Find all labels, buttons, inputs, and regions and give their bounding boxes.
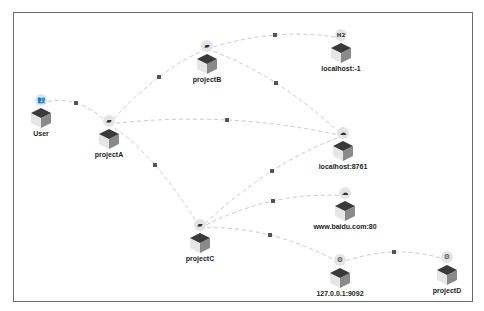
node-projectD[interactable]: ⚙projectD <box>433 251 461 295</box>
nodes-layer: 👥User▰projectA▰projectBH2localhost:-1☁lo… <box>31 29 461 297</box>
svg-text:👥: 👥 <box>37 96 46 104</box>
edge-projectA-localhost8761[interactable] <box>109 118 343 136</box>
node-projectC[interactable]: ▰projectC <box>186 219 214 263</box>
svg-text:☁: ☁ <box>342 189 349 197</box>
svg-text:☁: ☁ <box>340 129 347 137</box>
svg-text:⚙: ⚙ <box>444 253 450 261</box>
node-baidu[interactable]: ☁www.baidu.com:80 <box>312 187 376 230</box>
edge-kafka-projectD[interactable] <box>340 250 447 263</box>
node-projectB[interactable]: ▰projectB <box>193 40 221 84</box>
topology-graph[interactable]: 👥User▰projectA▰projectBH2localhost:-1☁lo… <box>0 0 484 311</box>
edge-projectA-projectB[interactable] <box>109 49 207 124</box>
node-label: projectB <box>193 76 221 84</box>
node-kafka[interactable]: ⚙127.0.0.1:9092 <box>316 254 363 297</box>
node-label: 127.0.0.1:9092 <box>316 290 363 297</box>
kafka-icon: ⚙ <box>334 254 346 266</box>
node-label: www.baidu.com:80 <box>312 223 376 230</box>
edge-midpoint-dot[interactable] <box>274 81 278 85</box>
edge-midpoint-dot[interactable] <box>273 33 277 37</box>
edge-midpoint-dot[interactable] <box>392 250 396 254</box>
server-icon: ▰ <box>103 115 115 127</box>
cloud-icon: ☁ <box>337 127 349 139</box>
node-user[interactable]: 👥User <box>31 94 51 137</box>
edge-user-projectA[interactable] <box>41 100 109 124</box>
node-label: localhost:-1 <box>321 65 360 72</box>
edge-midpoint-dot[interactable] <box>157 75 161 79</box>
node-label: projectC <box>186 255 214 263</box>
svg-text:▰: ▰ <box>197 221 203 229</box>
edge-projectB-localhost-1[interactable] <box>207 33 341 49</box>
svg-text:▰: ▰ <box>204 42 210 50</box>
h2-database-icon: H2 <box>335 29 347 41</box>
edge-midpoint-dot[interactable] <box>270 169 274 173</box>
svg-text:▰: ▰ <box>106 117 112 125</box>
users-icon: 👥 <box>35 94 47 106</box>
server-icon: ▰ <box>201 40 213 52</box>
edge-projectB-localhost8761[interactable] <box>207 49 343 136</box>
edge-midpoint-dot[interactable] <box>153 163 157 167</box>
node-localhost8761[interactable]: ☁localhost:8761 <box>319 127 368 170</box>
cloud-icon: ☁ <box>339 187 351 199</box>
edge-midpoint-dot[interactable] <box>268 233 272 237</box>
svg-text:H2: H2 <box>337 32 346 38</box>
edge-projectA-projectC[interactable] <box>109 124 200 228</box>
edge-midpoint-dot[interactable] <box>74 101 78 105</box>
node-label: projectA <box>95 151 123 159</box>
node-label: User <box>33 130 49 137</box>
edge-projectC-localhost8761[interactable] <box>200 136 343 228</box>
node-label: localhost:8761 <box>319 163 368 170</box>
svg-text:⚙: ⚙ <box>337 256 343 264</box>
kafka-icon: ⚙ <box>441 251 453 263</box>
node-projectA[interactable]: ▰projectA <box>95 115 123 159</box>
node-localhost-1[interactable]: H2localhost:-1 <box>321 29 360 72</box>
edges-layer <box>41 33 447 263</box>
edge-midpoint-dot[interactable] <box>225 118 229 122</box>
edge-midpoint-dot[interactable] <box>271 199 275 203</box>
node-label: projectD <box>433 287 461 295</box>
server-icon: ▰ <box>194 219 206 231</box>
edge-projectC-kafka[interactable] <box>200 228 340 263</box>
